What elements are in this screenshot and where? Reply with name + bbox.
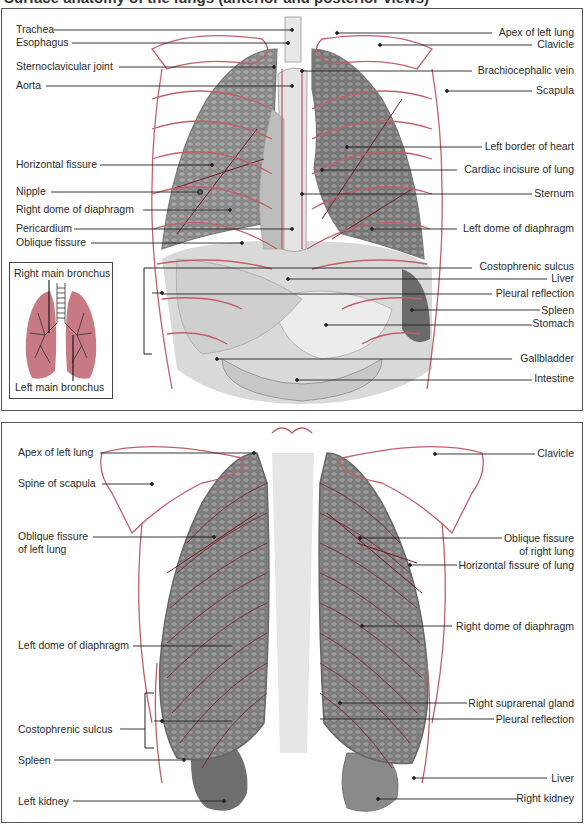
page-title-cropped: Surface anatomy of the lungs (anterior a…: [0, 0, 586, 6]
label-spine-of-scapula: Spine of scapula: [18, 477, 96, 489]
label-scapula: Scapula: [536, 84, 574, 96]
label-intestine: Intestine: [534, 372, 574, 384]
label-oblique-fissure-left-line2: of left lung: [18, 543, 66, 555]
label-right-dome-of-diaphragm: Right dome of diaphragm: [456, 620, 574, 632]
page-title: Surface anatomy of the lungs (anterior a…: [4, 0, 429, 6]
label-esophagus: Esophagus: [16, 36, 69, 48]
label-left-dome-of-diaphragm: Left dome of diaphragm: [463, 222, 574, 234]
label-right-dome-of-diaphragm: Right dome of diaphragm: [16, 203, 134, 215]
label-left-kidney: Left kidney: [18, 795, 69, 807]
bronchial-tree-inset: Right main bronchus Left main bronchus: [9, 262, 113, 399]
label-nipple: Nipple: [16, 185, 46, 197]
label-apex-of-left-lung: Apex of left lung: [18, 446, 93, 458]
label-spleen: Spleen: [541, 304, 574, 316]
label-pleural-reflection: Pleural reflection: [496, 713, 574, 725]
label-left-dome-of-diaphragm: Left dome of diaphragm: [18, 639, 129, 651]
label-oblique-fissure-right-line2: of right lung: [519, 545, 574, 557]
label-right-main-bronchus: Right main bronchus: [14, 267, 110, 279]
label-spleen: Spleen: [18, 754, 51, 766]
label-trachea: Trachea: [16, 23, 54, 35]
label-right-kidney: Right kidney: [516, 792, 574, 804]
label-oblique-fissure-right: Oblique fissure: [504, 532, 574, 544]
label-right-suprarenal-gland: Right suprarenal gland: [468, 697, 574, 709]
label-liver: Liver: [551, 272, 574, 284]
label-gallbladder: Gallbladder: [520, 352, 574, 364]
label-sternum: Sternum: [534, 187, 574, 199]
label-sternoclavicular-joint: Sternoclavicular joint: [16, 60, 113, 72]
label-liver: Liver: [551, 772, 574, 784]
label-cardiac-incisure-of-lung: Cardiac incisure of lung: [464, 163, 574, 175]
label-oblique-fissure: Oblique fissure: [16, 236, 86, 248]
label-brachiocephalic-vein: Brachiocephalic vein: [478, 64, 574, 76]
label-horizontal-fissure: Horizontal fissure: [16, 158, 97, 170]
anterior-view-panel: Trachea Esophagus Sternoclavicular joint…: [1, 8, 583, 411]
label-left-border-of-heart: Left border of heart: [485, 140, 574, 152]
label-horizontal-fissure-of-lung: Horizontal fissure of lung: [458, 559, 574, 571]
label-clavicle: Clavicle: [537, 38, 574, 50]
label-oblique-fissure-left: Oblique fissure: [18, 530, 88, 542]
label-aorta: Aorta: [16, 79, 41, 91]
label-pleural-reflection: Pleural reflection: [496, 287, 574, 299]
label-costophrenic-sulcus: Costophrenic sulcus: [18, 723, 113, 735]
label-clavicle: Clavicle: [537, 447, 574, 459]
posterior-view-panel: Apex of left lung Spine of scapula Obliq…: [1, 422, 583, 823]
label-stomach: Stomach: [533, 317, 574, 329]
bronchial-tree-illustration: [10, 263, 112, 398]
label-pericardium: Pericardium: [16, 222, 72, 234]
label-apex-of-left-lung: Apex of left lung: [499, 26, 574, 38]
label-costophrenic-sulcus: Costophrenic sulcus: [479, 260, 574, 272]
label-left-main-bronchus: Left main bronchus: [15, 381, 104, 393]
